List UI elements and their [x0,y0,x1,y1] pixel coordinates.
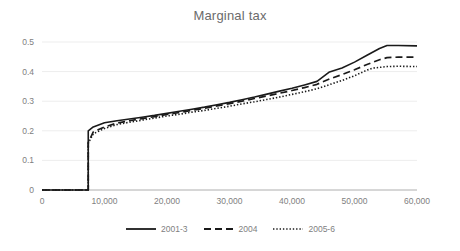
x-axis-tick-label: 50,000 [342,196,368,206]
chart-container: Marginal tax 00.10.20.30.40.5 010,00020,… [0,0,460,251]
x-axis-tick-label: 0 [40,196,45,206]
legend-swatch-solid [125,225,157,233]
legend-item[interactable]: 2004 [203,224,258,234]
x-axis-tick-label: 40,000 [279,196,305,206]
legend-label: 2005-6 [308,224,334,234]
y-axis-tick-label: 0.5 [8,37,34,47]
x-axis-tick-label: 30,000 [217,196,243,206]
data-series-group [42,46,417,190]
legend-label: 2004 [239,224,258,234]
y-axis-tick-label: 0.2 [8,126,34,136]
legend-label: 2001-3 [161,224,187,234]
gridlines [42,42,417,160]
x-axis-tick-label: 10,000 [92,196,118,206]
chart-legend: 2001-320042005-6 [0,224,460,234]
chart-plot-area [0,0,460,251]
y-axis-tick-label: 0.4 [8,67,34,77]
legend-item[interactable]: 2005-6 [272,224,334,234]
series-line-2005-6 [42,66,417,190]
series-line-2004 [42,57,417,190]
y-axis-tick-label: 0 [8,185,34,195]
legend-swatch-dashed [203,225,235,233]
x-axis-tick-label: 20,000 [154,196,180,206]
legend-swatch-dotted [272,225,304,233]
series-line-2001-3 [42,46,417,190]
y-axis-tick-label: 0.3 [8,96,34,106]
legend-item[interactable]: 2001-3 [125,224,187,234]
y-axis-tick-label: 0.1 [8,155,34,165]
x-axis-tick-label: 60,000 [404,196,430,206]
